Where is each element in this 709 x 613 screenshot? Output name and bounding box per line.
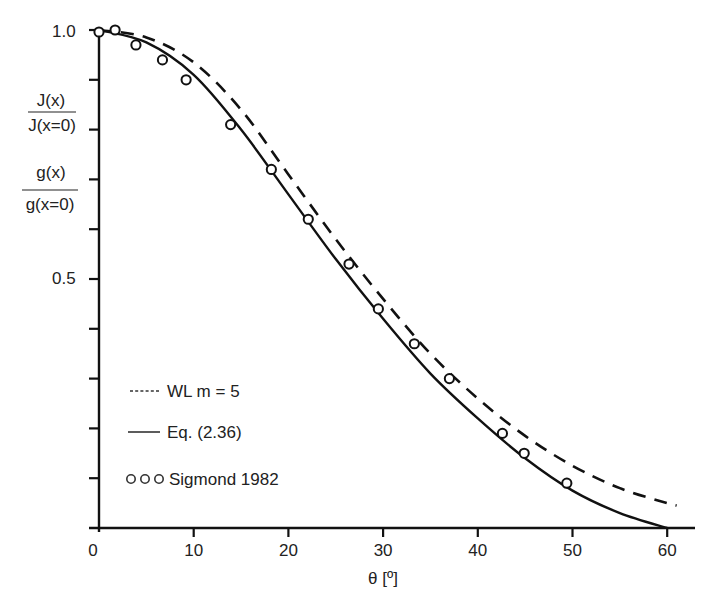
data-point-marker: [110, 25, 119, 34]
y-label-j-numerator: J(x): [37, 91, 65, 110]
x-tick-label: 40: [468, 541, 487, 560]
x-ticks: 0102030405060: [88, 528, 676, 560]
circle-marker-icon: [155, 475, 163, 483]
y-tick-label-1: 1.0: [52, 22, 76, 41]
data-point-marker: [304, 215, 313, 224]
legend: WL m = 5 Eq. (2.36) Sigmond 1982: [127, 382, 279, 489]
data-point-marker: [374, 304, 383, 313]
x-tick-label: 50: [563, 541, 582, 560]
legend-label-sigmond: Sigmond 1982: [169, 470, 279, 489]
x-tick-label: 10: [184, 541, 203, 560]
series-eq-2-36-solid-line: [99, 30, 667, 528]
legend-label-wl: WL m = 5: [167, 382, 240, 401]
y-tick-label-0-5: 0.5: [52, 269, 76, 288]
data-point-marker: [94, 27, 103, 36]
y-ticks: [89, 30, 99, 478]
x-tick-label: 20: [279, 541, 298, 560]
legend-item-wl: WL m = 5: [130, 382, 240, 401]
data-point-marker: [158, 55, 167, 64]
legend-item-eq: Eq. (2.36): [128, 423, 242, 442]
y-label-g-denominator: g(x=0): [26, 195, 75, 214]
legend-item-sigmond: Sigmond 1982: [127, 470, 279, 489]
x-axis-title: θ [º]: [368, 569, 398, 588]
x-tick-label: 30: [374, 541, 393, 560]
legend-label-eq: Eq. (2.36): [167, 423, 242, 442]
x-tick-label: 0: [88, 541, 97, 560]
data-point-marker: [410, 339, 419, 348]
data-point-marker: [267, 165, 276, 174]
y-axis-label-j: J(x) J(x=0): [28, 91, 76, 135]
data-point-marker: [520, 449, 529, 458]
x-tick-label: 60: [658, 541, 677, 560]
chart: 0102030405060 1.0 0.5 J(x) J(x=0) g(x) g…: [0, 0, 709, 613]
data-point-marker: [562, 479, 571, 488]
data-point-marker: [344, 259, 353, 268]
data-point-marker: [498, 429, 507, 438]
y-axis-label-g: g(x) g(x=0): [22, 163, 78, 214]
data-point-marker: [445, 374, 454, 383]
data-point-marker: [131, 40, 140, 49]
circle-marker-icon: [141, 475, 149, 483]
data-point-marker: [226, 120, 235, 129]
y-label-j-denominator: J(x=0): [28, 116, 76, 135]
y-label-g-numerator: g(x): [36, 163, 65, 182]
data-point-marker: [182, 75, 191, 84]
circle-marker-icon: [127, 475, 135, 483]
